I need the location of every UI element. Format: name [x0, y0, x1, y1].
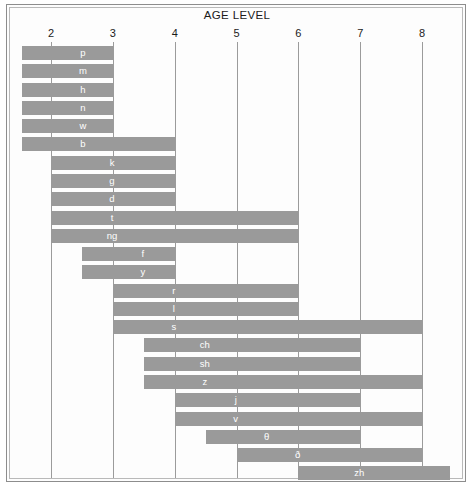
bar-p	[22, 46, 113, 60]
bar-z	[144, 375, 422, 389]
bar-row: θ	[0, 430, 474, 444]
bar-row: zh	[0, 466, 474, 480]
bar-t	[51, 211, 298, 225]
bar-row: w	[0, 119, 474, 133]
bar-y	[82, 265, 175, 279]
bar-l	[113, 302, 299, 316]
bar-row: n	[0, 101, 474, 115]
bar-g	[51, 174, 175, 188]
bar-row: l	[0, 302, 474, 316]
x-axis-tick-label-7: 7	[357, 27, 363, 39]
bar-f	[82, 247, 175, 261]
x-axis-tick-label-6: 6	[295, 27, 301, 39]
bar-zh	[298, 466, 450, 480]
bar-row: k	[0, 156, 474, 170]
bar-d	[51, 192, 175, 206]
bar-w	[22, 119, 113, 133]
bar-r	[113, 284, 299, 298]
bar-row: s	[0, 320, 474, 334]
bar-row: g	[0, 174, 474, 188]
bar-n	[22, 101, 113, 115]
bar-v	[175, 412, 422, 426]
bar-row: f	[0, 247, 474, 261]
x-axis-tick-label-2: 2	[48, 27, 54, 39]
bar-sh	[144, 357, 360, 371]
bar-row: v	[0, 412, 474, 426]
bar-row: j	[0, 393, 474, 407]
x-axis-tick-label-5: 5	[233, 27, 239, 39]
bar-row: z	[0, 375, 474, 389]
bar-row: p	[0, 46, 474, 60]
bar-h	[22, 83, 113, 97]
bar-row: d	[0, 192, 474, 206]
x-axis-tick-label-4: 4	[172, 27, 178, 39]
x-axis-tick-label-8: 8	[419, 27, 425, 39]
bar-row: sh	[0, 357, 474, 371]
bar-ð	[237, 448, 423, 462]
x-axis-tick-label-3: 3	[110, 27, 116, 39]
bar-row: h	[0, 83, 474, 97]
bar-row: y	[0, 265, 474, 279]
bar-ch	[144, 338, 360, 352]
bar-row: ch	[0, 338, 474, 352]
bar-s	[113, 320, 422, 334]
bar-row: b	[0, 137, 474, 151]
scan-artifact-top	[451, 60, 454, 66]
bar-m	[22, 64, 113, 78]
bar-k	[51, 156, 175, 170]
scan-artifact-bottom	[451, 240, 454, 246]
bar-j	[175, 393, 361, 407]
bar-row: ng	[0, 229, 474, 243]
bar-row: r	[0, 284, 474, 298]
bar-θ	[206, 430, 361, 444]
bar-row: ð	[0, 448, 474, 462]
bar-b	[22, 137, 175, 151]
bar-row: t	[0, 211, 474, 225]
bar-ng	[51, 229, 298, 243]
bar-row: m	[0, 64, 474, 78]
age-level-bar-chart: AGE LEVEL 2345678pmhnwbkgdtngfyrlschshzj…	[0, 0, 474, 492]
plot-area: 2345678pmhnwbkgdtngfyrlschshzjvθðzh	[0, 0, 474, 492]
